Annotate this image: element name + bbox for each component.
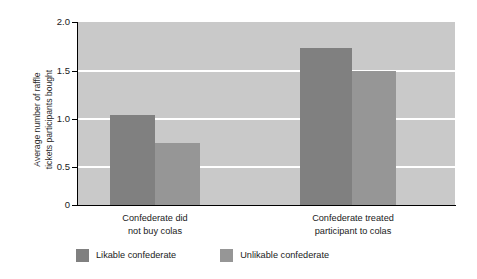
- legend-label-likable: Likable confederate: [96, 249, 176, 262]
- legend: Likable confederate Unlikable confederat…: [76, 249, 329, 262]
- legend-swatch-unlikable: [220, 249, 233, 262]
- plot-area: [78, 22, 455, 205]
- y-tick-label-0_5: 0.5: [42, 162, 70, 172]
- x-category-label-1: Confederate did not buy colas: [95, 212, 215, 237]
- y-tick-label-1_5: 1.5: [42, 66, 70, 76]
- legend-item-likable: Likable confederate: [76, 249, 176, 262]
- bar-unlikable-treated-colas: [352, 71, 396, 205]
- x-category-label-2-line1: Confederate treated: [288, 212, 418, 225]
- x-axis-line: [77, 205, 456, 206]
- y-axis-tick-labels: 2.0 1.5 1.0 0.5 0: [40, 0, 70, 279]
- y-axis-line: [77, 22, 78, 206]
- bar-chart-figure: Average number of raffle tickets partici…: [0, 0, 477, 279]
- y-tick-label-0: 0: [42, 200, 70, 210]
- gridline-1_5: [78, 70, 455, 72]
- legend-swatch-likable: [76, 249, 89, 262]
- x-category-label-2: Confederate treated participant to colas: [288, 212, 418, 237]
- bar-likable-treated-colas: [300, 48, 352, 205]
- y-tick-label-2_0: 2.0: [42, 17, 70, 27]
- legend-item-unlikable: Unlikable confederate: [220, 249, 329, 262]
- x-category-label-1-line2: not buy colas: [95, 225, 215, 238]
- legend-label-unlikable: Unlikable confederate: [240, 249, 329, 262]
- x-category-label-2-line2: participant to colas: [288, 225, 418, 238]
- bar-likable-no-colas: [110, 115, 155, 205]
- y-tick-label-1_0: 1.0: [42, 114, 70, 124]
- x-category-label-1-line1: Confederate did: [95, 212, 215, 225]
- bar-unlikable-no-colas: [155, 143, 200, 205]
- legend-spacer: [176, 255, 220, 256]
